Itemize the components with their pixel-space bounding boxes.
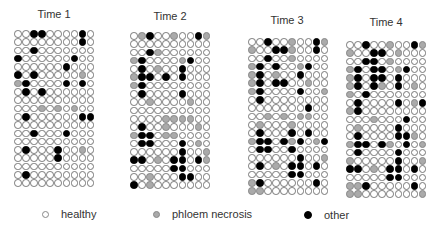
healthy-circle (264, 46, 272, 54)
healthy-circle (280, 88, 288, 96)
other-circle (378, 49, 386, 57)
phloem-necrosis-circle (272, 71, 280, 79)
phloem-necrosis-circle (248, 46, 256, 54)
phloem-necrosis-circle (130, 57, 138, 65)
healthy-circle (46, 47, 54, 55)
healthy-circle (195, 165, 203, 173)
healthy-circle (63, 47, 71, 55)
healthy-circle (14, 105, 22, 113)
healthy-circle (248, 171, 256, 179)
other-circle (146, 32, 154, 40)
healthy-circle (386, 49, 394, 57)
healthy-circle (362, 157, 370, 165)
phloem-necrosis-circle (346, 49, 354, 57)
other-circle (256, 63, 264, 71)
healthy-circle (14, 113, 22, 121)
healthy-circle (195, 115, 203, 123)
healthy-circle (280, 96, 288, 104)
other-circle (63, 80, 71, 88)
healthy-circle (256, 46, 264, 54)
phloem-necrosis-circle (170, 132, 178, 140)
other-circle (264, 138, 272, 146)
phloem-necrosis-circle (346, 91, 354, 99)
healthy-circle (378, 149, 386, 157)
healthy-circle (71, 80, 79, 88)
healthy-circle (264, 88, 272, 96)
healthy-circle (162, 165, 170, 173)
other-circle (138, 73, 146, 81)
other-circle (395, 74, 403, 82)
healthy-circle (313, 88, 321, 96)
healthy-circle (187, 156, 195, 164)
phloem-necrosis-circle (346, 107, 354, 115)
healthy-circle (63, 71, 71, 79)
healthy-circle (305, 179, 313, 187)
healthy-circle (370, 107, 378, 115)
healthy-circle (288, 104, 296, 112)
healthy-circle (288, 154, 296, 162)
other-circle (411, 41, 419, 49)
healthy-circle (370, 41, 378, 49)
healthy-circle (187, 82, 195, 90)
healthy-circle (154, 123, 162, 131)
healthy-circle (370, 132, 378, 140)
healthy-circle (187, 40, 195, 48)
healthy-circle (22, 96, 30, 104)
healthy-circle (63, 113, 71, 121)
other-circle (395, 174, 403, 182)
healthy-circle (22, 71, 30, 79)
phloem-necrosis-circle (321, 88, 329, 96)
healthy-circle (22, 63, 30, 71)
other-circle (272, 79, 280, 87)
phloem-necrosis-circle (162, 115, 170, 123)
healthy-circle (411, 190, 419, 198)
healthy-circle (46, 146, 54, 154)
healthy-circle (386, 107, 394, 115)
healthy-circle (370, 91, 378, 99)
healthy-circle (71, 146, 79, 154)
healthy-circle (71, 38, 79, 46)
healthy-circle (38, 163, 46, 171)
healthy-circle (386, 116, 394, 124)
healthy-circle (30, 88, 38, 96)
healthy-circle (54, 55, 62, 63)
healthy-circle (248, 38, 256, 46)
other-circle (146, 73, 154, 81)
healthy-circle (419, 132, 427, 140)
other-circle (187, 57, 195, 65)
healthy-circle (71, 63, 79, 71)
phloem-necrosis-circle (203, 156, 211, 164)
healthy-circle (256, 104, 264, 112)
phloem-necrosis-circle (187, 115, 195, 123)
other-circle (138, 90, 146, 98)
healthy-circle (321, 79, 329, 87)
phloem-necrosis-circle (154, 156, 162, 164)
healthy-circle (162, 49, 170, 57)
healthy-circle (321, 129, 329, 137)
healthy-circle (22, 47, 30, 55)
phloem-necrosis-circle (354, 190, 362, 198)
legend-healthy-label: healthy (61, 208, 96, 220)
other-circle (138, 156, 146, 164)
other-circle (386, 165, 394, 173)
healthy-circle (378, 132, 386, 140)
healthy-circle (203, 123, 211, 131)
healthy-circle (203, 173, 211, 181)
other-circle (354, 141, 362, 149)
healthy-circle (297, 179, 305, 187)
healthy-circle (297, 46, 305, 54)
healthy-circle (288, 179, 296, 187)
other-circle (138, 82, 146, 90)
healthy-circle (297, 96, 305, 104)
phloem-necrosis-circle (288, 121, 296, 129)
healthy-circle (14, 38, 22, 46)
healthy-circle (264, 121, 272, 129)
phloem-necrosis-circle (248, 138, 256, 146)
healthy-circle (154, 32, 162, 40)
healthy-circle (346, 116, 354, 124)
other-circle (305, 104, 313, 112)
healthy-circle (195, 82, 203, 90)
healthy-circle (386, 132, 394, 140)
panel-title-time-2: Time 2 (153, 10, 186, 22)
healthy-circle (321, 63, 329, 71)
